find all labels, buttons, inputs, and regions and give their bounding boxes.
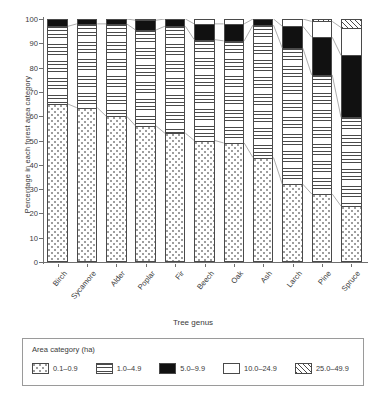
chart-root: Percentage in each forest area category … bbox=[0, 0, 386, 401]
bar-segment bbox=[312, 37, 333, 75]
x-tick-mark bbox=[263, 264, 264, 267]
x-tick-mark bbox=[146, 264, 147, 267]
x-tick-mark bbox=[234, 264, 235, 267]
bar-segment bbox=[194, 24, 215, 40]
plot-area: 0102030405060708090100 bbox=[43, 19, 366, 262]
y-tick-mark bbox=[39, 92, 43, 93]
x-tick-label-poplar: Poplar bbox=[136, 269, 157, 292]
y-tick-mark bbox=[39, 213, 43, 214]
legend-swatch-hatch bbox=[295, 363, 312, 374]
bar-segment bbox=[341, 117, 362, 206]
legend-label: 5.0–9.9 bbox=[180, 364, 205, 373]
bar-segment bbox=[135, 19, 156, 20]
bar-alder[interactable] bbox=[106, 19, 127, 262]
bar-segment bbox=[224, 24, 245, 41]
y-tick-mark bbox=[39, 116, 43, 117]
bar-segment bbox=[194, 19, 215, 24]
y-tick-mark bbox=[39, 238, 43, 239]
bar-segment bbox=[106, 19, 127, 24]
legend-item-black[interactable]: 5.0–9.9 bbox=[159, 363, 205, 374]
y-tick-mark bbox=[39, 68, 43, 69]
bar-segment bbox=[312, 75, 333, 194]
bar-spruce[interactable] bbox=[341, 19, 362, 262]
bar-segment bbox=[253, 19, 274, 25]
bar-segment bbox=[282, 19, 303, 26]
x-tick-mark bbox=[205, 264, 206, 267]
bar-segment bbox=[77, 108, 98, 262]
x-tick-mark bbox=[175, 264, 176, 267]
y-tick-mark bbox=[39, 165, 43, 166]
bar-beech[interactable] bbox=[194, 19, 215, 262]
y-tick-mark bbox=[39, 189, 43, 190]
bar-segment bbox=[341, 206, 362, 262]
y-tick-mark bbox=[39, 141, 43, 142]
legend-item-hatch[interactable]: 25.0–49.9 bbox=[295, 363, 349, 374]
x-axis-tick-labels: BirchSycamoreAlderPoplarFirBeechOakAshLa… bbox=[43, 264, 368, 320]
bar-segment bbox=[135, 30, 156, 126]
bar-larch[interactable] bbox=[282, 19, 303, 262]
bar-segment bbox=[312, 194, 333, 262]
bar-fir[interactable] bbox=[165, 19, 186, 262]
bar-segment bbox=[77, 24, 98, 108]
bar-segment bbox=[47, 26, 68, 104]
legend-item-dots[interactable]: 0.1–0.9 bbox=[32, 363, 78, 374]
legend-label: 10.0–24.9 bbox=[244, 364, 277, 373]
bar-segment bbox=[224, 19, 245, 24]
x-tick-label-alder: Alder bbox=[109, 269, 127, 288]
bar-segment bbox=[224, 143, 245, 262]
legend-label: 25.0–49.9 bbox=[316, 364, 349, 373]
bar-segment bbox=[282, 184, 303, 262]
x-tick-label-spruce: Spruce bbox=[340, 269, 362, 293]
x-tick-mark bbox=[116, 264, 117, 267]
legend-swatch-hlines bbox=[96, 363, 113, 374]
legend-label: 1.0–4.9 bbox=[117, 364, 142, 373]
bar-segment bbox=[194, 141, 215, 263]
legend-label: 0.1–0.9 bbox=[53, 364, 78, 373]
bar-segment bbox=[341, 19, 362, 28]
x-tick-mark bbox=[58, 264, 59, 267]
x-tick-label-beech: Beech bbox=[195, 269, 216, 291]
bar-segment bbox=[165, 19, 186, 26]
x-tick-label-larch: Larch bbox=[284, 269, 303, 289]
bar-segment bbox=[47, 104, 68, 262]
x-axis-title: Tree genus bbox=[0, 318, 386, 327]
x-axis-line bbox=[43, 262, 368, 263]
bar-oak[interactable] bbox=[224, 19, 245, 262]
bar-segment bbox=[253, 158, 274, 262]
bar-segment bbox=[312, 21, 333, 37]
x-tick-label-oak: Oak bbox=[229, 269, 245, 285]
y-tick-mark bbox=[39, 19, 43, 20]
legend-item-white[interactable]: 10.0–24.9 bbox=[223, 363, 277, 374]
bar-segment bbox=[77, 19, 98, 24]
bar-sycamore[interactable] bbox=[77, 19, 98, 262]
bar-segment bbox=[282, 26, 303, 48]
bar-segment bbox=[224, 41, 245, 143]
bar-segment bbox=[135, 20, 156, 30]
bar-segment bbox=[341, 55, 362, 117]
bar-poplar[interactable] bbox=[135, 19, 156, 262]
x-tick-label-ash: Ash bbox=[259, 269, 274, 285]
bar-birch[interactable] bbox=[47, 19, 68, 262]
x-tick-label-fir: Fir bbox=[173, 269, 186, 282]
bar-segment bbox=[135, 126, 156, 262]
x-tick-mark bbox=[293, 264, 294, 267]
bar-segment bbox=[282, 48, 303, 184]
bar-pine[interactable] bbox=[312, 19, 333, 262]
legend-swatch-white bbox=[223, 363, 240, 374]
x-tick-label-birch: Birch bbox=[51, 269, 69, 288]
bar-segment bbox=[47, 19, 68, 26]
bar-segment bbox=[106, 24, 127, 116]
x-tick-mark bbox=[351, 264, 352, 267]
y-tick-mark bbox=[39, 43, 43, 44]
legend-item-hlines[interactable]: 1.0–4.9 bbox=[96, 363, 142, 374]
bar-ash[interactable] bbox=[253, 19, 274, 262]
x-tick-label-pine: Pine bbox=[316, 269, 333, 286]
x-tick-label-sycamore: Sycamore bbox=[69, 269, 98, 301]
legend-items: 0.1–0.91.0–4.95.0–9.910.0–24.925.0–49.9 bbox=[32, 363, 357, 374]
y-tick-mark bbox=[39, 262, 43, 263]
x-tick-mark bbox=[322, 264, 323, 267]
bar-segment bbox=[341, 28, 362, 56]
bar-segment bbox=[106, 116, 127, 262]
legend-swatch-black bbox=[159, 363, 176, 374]
bar-segment bbox=[165, 133, 186, 262]
